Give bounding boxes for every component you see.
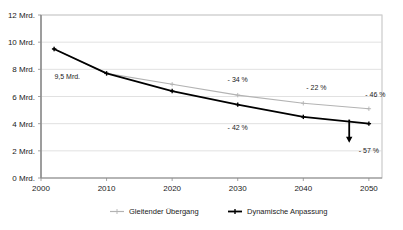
gray-2030-pct: - 34 % [228,76,248,83]
legend-label: Dynamische Anpassung [247,207,327,216]
legend-item-2: Dynamische Anpassung [228,207,327,216]
legend-item-1: Gleitender Übergang [110,207,199,216]
x-tick-label: 2020 [163,184,181,193]
y-tick-label: 0 Mrd. [12,174,35,183]
y-tick-label: 10 Mrd. [8,38,35,47]
black-2030-pct: - 42 % [228,124,248,131]
y-tick-label: 12 Mrd. [8,11,35,20]
start-value-label: 9,5 Mrd. [54,73,80,80]
gray-2050-pct: - 46 % [365,91,385,98]
y-tick-label: 6 Mrd. [12,93,35,102]
x-tick-label: 2000 [32,184,50,193]
y-tick-label: 8 Mrd. [12,65,35,74]
x-tick-label: 2050 [360,184,378,193]
y-tick-label: 2 Mrd. [12,147,35,156]
gray-2042-pct: - 22 % [306,84,326,91]
x-tick-label: 2030 [229,184,247,193]
chart-legend: Gleitender ÜbergangDynamische Anpassung [110,207,327,216]
line-chart-svg: 0 Mrd.2 Mrd.4 Mrd.6 Mrd.8 Mrd.10 Mrd.12 … [0,0,403,230]
x-tick-label: 2010 [98,184,116,193]
chart-container: 0 Mrd.2 Mrd.4 Mrd.6 Mrd.8 Mrd.10 Mrd.12 … [0,0,403,230]
black-2050-pct: - 57 % [359,147,379,154]
x-axis-labels: 200020102020203020402050 [32,178,378,193]
y-tick-label: 4 Mrd. [12,120,35,129]
x-tick-label: 2040 [294,184,312,193]
legend-label: Gleitender Übergang [129,207,199,216]
y-axis-labels: 0 Mrd.2 Mrd.4 Mrd.6 Mrd.8 Mrd.10 Mrd.12 … [8,11,41,183]
